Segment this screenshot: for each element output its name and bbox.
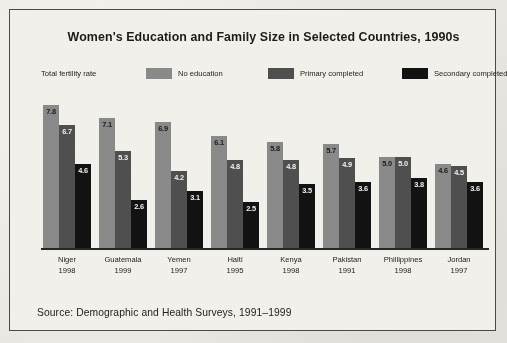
survey-year: 1998 — [261, 265, 321, 276]
legend-swatch-primary-completed — [268, 68, 294, 79]
bar-group: 6.14.82.5 — [211, 98, 259, 248]
legend-label-primary-completed: Primary completed — [300, 69, 363, 78]
legend-swatch-secondary-completed — [402, 68, 428, 79]
country-name: Jordan — [429, 254, 489, 265]
bar: 4.8 — [227, 160, 243, 248]
bar-group: 5.05.03.8 — [379, 98, 427, 248]
x-axis-labels: Niger1998Guatemala1999Yemen1997Haiti1995… — [41, 254, 489, 284]
bar-value-label: 4.6 — [78, 167, 88, 174]
legend-label-secondary-completed: Secondary completed — [434, 69, 507, 78]
survey-year: 1997 — [429, 265, 489, 276]
bar: 4.2 — [171, 171, 187, 248]
survey-year: 1998 — [37, 265, 97, 276]
bar: 6.1 — [211, 136, 227, 248]
x-axis-label-jordan: Jordan1997 — [429, 254, 489, 276]
x-axis-label-niger: Niger1998 — [37, 254, 97, 276]
country-name: Phillippines — [373, 254, 433, 265]
legend-item-no-education: No education — [146, 66, 223, 80]
country-name: Kenya — [261, 254, 321, 265]
bar: 5.3 — [115, 151, 131, 248]
bar-value-label: 6.7 — [62, 128, 72, 135]
bar-value-label: 5.0 — [382, 160, 392, 167]
bar: 6.7 — [59, 125, 75, 248]
x-axis-label-pakistan: Pakistan1991 — [317, 254, 377, 276]
bar-value-label: 3.6 — [470, 185, 480, 192]
bar-value-label: 3.5 — [302, 187, 312, 194]
bar-value-label: 3.1 — [190, 194, 200, 201]
bar: 2.6 — [131, 200, 147, 248]
bar: 3.8 — [411, 178, 427, 248]
legend-axis-note-label: Total fertility rate — [41, 69, 96, 78]
bar-group: 7.86.74.6 — [43, 98, 91, 248]
bar-value-label: 2.6 — [134, 203, 144, 210]
chart-frame: Women's Education and Family Size in Sel… — [9, 9, 496, 331]
legend-axis-note: Total fertility rate — [41, 66, 96, 80]
bar-group: 6.94.23.1 — [155, 98, 203, 248]
bar: 7.1 — [99, 118, 115, 248]
survey-year: 1995 — [205, 265, 265, 276]
bar: 4.8 — [283, 160, 299, 248]
bar-chart-plot-area: 7.86.74.67.15.32.66.94.23.16.14.82.55.84… — [41, 98, 489, 248]
x-axis-label-yemen: Yemen1997 — [149, 254, 209, 276]
bar-value-label: 5.8 — [270, 145, 280, 152]
survey-year: 1998 — [373, 265, 433, 276]
bar-value-label: 6.9 — [158, 125, 168, 132]
bar: 5.0 — [379, 157, 395, 248]
bar-group: 5.84.83.5 — [267, 98, 315, 248]
bar-value-label: 5.7 — [326, 147, 336, 154]
page-title: Women's Education and Family Size in Sel… — [10, 30, 507, 44]
country-name: Yemen — [149, 254, 209, 265]
x-axis-line — [41, 248, 489, 250]
bar-value-label: 4.2 — [174, 174, 184, 181]
bar: 7.8 — [43, 105, 59, 248]
legend-label-no-education: No education — [178, 69, 223, 78]
legend-swatch-no-education — [146, 68, 172, 79]
bar-value-label: 4.8 — [230, 163, 240, 170]
bar-value-label: 3.6 — [358, 185, 368, 192]
bar: 4.6 — [75, 164, 91, 248]
country-name: Guatemala — [93, 254, 153, 265]
bar: 5.8 — [267, 142, 283, 248]
bar: 5.7 — [323, 144, 339, 248]
survey-year: 1991 — [317, 265, 377, 276]
bar: 4.9 — [339, 158, 355, 248]
x-axis-label-phillippines: Phillippines1998 — [373, 254, 433, 276]
bar: 3.6 — [467, 182, 483, 248]
bar: 6.9 — [155, 122, 171, 248]
country-name: Pakistan — [317, 254, 377, 265]
bar-value-label: 5.3 — [118, 154, 128, 161]
chart-legend: Total fertility rate No education Primar… — [10, 66, 507, 80]
survey-year: 1997 — [149, 265, 209, 276]
bar: 5.0 — [395, 157, 411, 248]
legend-item-primary-completed: Primary completed — [268, 66, 363, 80]
bar-value-label: 4.9 — [342, 161, 352, 168]
legend-item-secondary-completed: Secondary completed — [402, 66, 507, 80]
bar-value-label: 5.0 — [398, 160, 408, 167]
x-axis-label-guatemala: Guatemala1999 — [93, 254, 153, 276]
bar-value-label: 3.8 — [414, 181, 424, 188]
bar-group: 7.15.32.6 — [99, 98, 147, 248]
bar-value-label: 4.6 — [438, 167, 448, 174]
bar-value-label: 7.1 — [102, 121, 112, 128]
bar: 3.1 — [187, 191, 203, 248]
bar-group: 4.64.53.6 — [435, 98, 483, 248]
bar-value-label: 4.5 — [454, 169, 464, 176]
source-note: Source: Demographic and Health Surveys, … — [37, 307, 291, 318]
country-name: Haiti — [205, 254, 265, 265]
chart-page: Women's Education and Family Size in Sel… — [0, 0, 507, 343]
country-name: Niger — [37, 254, 97, 265]
survey-year: 1999 — [93, 265, 153, 276]
bar-group: 5.74.93.6 — [323, 98, 371, 248]
x-axis-label-kenya: Kenya1998 — [261, 254, 321, 276]
bar: 2.5 — [243, 202, 259, 248]
bar-value-label: 6.1 — [214, 139, 224, 146]
bar: 3.5 — [299, 184, 315, 248]
bar-value-label: 4.8 — [286, 163, 296, 170]
bar: 4.5 — [451, 166, 467, 248]
bar-value-label: 7.8 — [46, 108, 56, 115]
bar-value-label: 2.5 — [246, 205, 256, 212]
bar: 4.6 — [435, 164, 451, 248]
bar: 3.6 — [355, 182, 371, 248]
x-axis-label-haiti: Haiti1995 — [205, 254, 265, 276]
